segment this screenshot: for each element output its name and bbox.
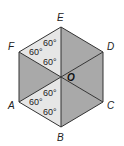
- vertex-label-d: D: [107, 41, 114, 52]
- angle-label: 60°: [29, 97, 43, 107]
- angle-label: 60°: [29, 47, 43, 57]
- vertex-label-b: B: [57, 132, 64, 143]
- hexagon-diagram: EDCBAF 60°60°60°60°60°60° O: [0, 0, 124, 146]
- vertex-label-e: E: [57, 12, 64, 23]
- angle-label: 60°: [43, 88, 57, 98]
- vertex-label-a: A: [7, 100, 15, 111]
- angle-label: 60°: [43, 38, 57, 48]
- vertex-label-f: F: [8, 41, 15, 52]
- angle-label: 60°: [43, 107, 57, 117]
- angle-label: 60°: [43, 57, 57, 67]
- center-label-o: O: [67, 72, 75, 83]
- vertex-label-c: C: [107, 100, 115, 111]
